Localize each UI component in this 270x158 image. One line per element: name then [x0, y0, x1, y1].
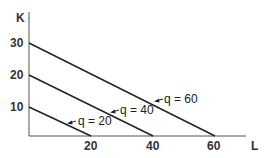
x-tick-40: 40 — [146, 139, 160, 153]
label-q20: q = 20 — [78, 114, 112, 128]
x-axis-label: L — [251, 139, 258, 153]
arrow-q20 — [67, 121, 76, 125]
x-tick-60: 60 — [207, 139, 221, 153]
y-axis-label: K — [16, 11, 25, 25]
isoquant-chart: K L 30 20 10 20 40 60 q = 20 q = 40 q = … — [0, 0, 270, 158]
y-tick-20: 20 — [10, 68, 24, 82]
arrow-q40 — [110, 110, 119, 114]
y-tick-30: 30 — [10, 36, 24, 50]
label-q40: q = 40 — [120, 103, 154, 117]
y-tick-10: 10 — [10, 100, 24, 114]
arrow-q60 — [154, 99, 163, 103]
x-tick-20: 20 — [84, 139, 98, 153]
label-q60: q = 60 — [164, 92, 198, 106]
